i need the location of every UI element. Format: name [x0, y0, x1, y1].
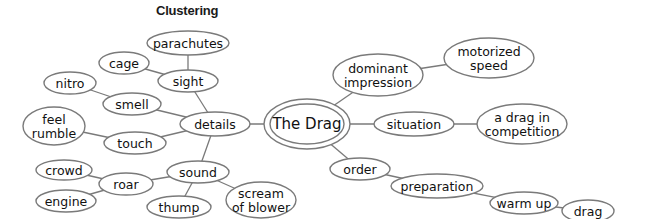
center-label: The Drag	[271, 115, 341, 133]
node-parachutes: parachutes	[147, 31, 229, 55]
node-label: cage	[109, 56, 139, 71]
node-drag: drag	[562, 200, 614, 219]
node-label: situation	[387, 117, 441, 132]
node-cage: cage	[99, 52, 149, 74]
node-label: speed	[470, 58, 508, 73]
node-label: motorized	[457, 44, 520, 59]
node-label: preparation	[401, 179, 474, 194]
node-motorized-speed: motorizedspeed	[444, 38, 534, 78]
node-engine: engine	[36, 190, 96, 212]
node-label: engine	[45, 194, 88, 209]
node-label: warm up	[497, 196, 552, 211]
node-order: order	[330, 158, 390, 180]
node-dominant-impression: dominantimpression	[333, 54, 423, 96]
node-details: details	[180, 112, 250, 136]
node-label: dominant	[348, 61, 408, 76]
node-label: thump	[159, 200, 200, 215]
node-nitro: nitro	[44, 72, 96, 94]
node-sound: sound	[167, 161, 229, 183]
node-roar: roar	[99, 173, 153, 195]
node-label: roar	[113, 177, 139, 192]
node-smell: smell	[103, 93, 161, 115]
node-feel-rumble: feelrumble	[23, 107, 85, 145]
node-label: nitro	[56, 76, 85, 91]
node-label: details	[194, 117, 236, 132]
center-node: The Drag	[264, 99, 350, 149]
node-label: sight	[173, 74, 204, 89]
node-label: drag	[574, 204, 603, 219]
cluster-diagram: detailssightparachutescagesmellnitrotouc…	[0, 0, 647, 219]
node-label: scream	[238, 186, 284, 201]
node-sight: sight	[158, 70, 218, 92]
node-a-drag-in-competition: a drag incompetition	[477, 104, 567, 144]
node-label: sound	[179, 165, 217, 180]
node-label: order	[343, 162, 377, 177]
node-label: impression	[344, 75, 412, 90]
node-thump: thump	[147, 196, 211, 218]
node-label: of blower	[232, 200, 291, 215]
node-situation: situation	[374, 112, 454, 136]
node-warm-up: warm up	[490, 192, 558, 214]
node-touch: touch	[104, 132, 166, 154]
node-label: feel	[42, 112, 65, 127]
node-label: smell	[115, 97, 148, 112]
node-label: rumble	[32, 126, 77, 141]
node-label: touch	[117, 136, 152, 151]
node-label: a drag in	[494, 110, 550, 125]
node-label: competition	[485, 124, 560, 139]
node-preparation: preparation	[391, 174, 483, 198]
node-label: parachutes	[153, 36, 223, 51]
node-crowd: crowd	[36, 160, 92, 180]
node-scream-of-blower: screamof blower	[226, 182, 296, 218]
node-label: crowd	[45, 163, 83, 178]
